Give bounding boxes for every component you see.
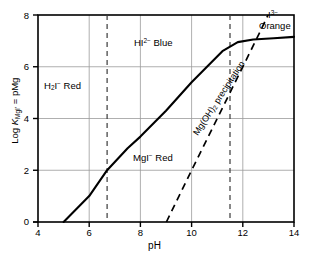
x-tick-label: 14 (284, 228, 304, 238)
annotation-hi-blue: HI2− Blue (134, 38, 173, 48)
x-tick-label: 4 (28, 228, 48, 238)
h2i-pre: H (44, 80, 51, 91)
x-tick-label: 12 (233, 228, 253, 238)
y-axis-title-prefix: Log (9, 125, 20, 144)
y-axis-title-suffix: = pMg (9, 78, 20, 107)
i3-post: Orange (259, 21, 291, 31)
y-axis-title-subscript: MgI' (14, 107, 21, 119)
x-tick-label: 8 (130, 228, 150, 238)
hi-pre: HI (134, 37, 144, 48)
h2i-post: Red (61, 80, 81, 91)
y-tick-label: 8 (15, 11, 29, 21)
hi-sup: 2− (144, 37, 151, 44)
x-tick-label: 6 (79, 228, 99, 238)
x-tick-label: 10 (182, 228, 202, 238)
chart-figure: 4 6 8 10 12 14 0 2 4 6 8 pH Log KMgI' = … (0, 0, 309, 257)
y-tick-label: 0 (15, 217, 29, 227)
x-axis-title: pH (0, 240, 309, 251)
y-axis-title: Log KMgI' = pMg (9, 41, 20, 181)
mgi-post: Red (153, 152, 173, 163)
annotation-h2i-red: H2I− Red (44, 81, 81, 92)
y-axis-title-symbol: K (9, 119, 20, 125)
mgi-pre: MgI (133, 152, 149, 163)
log-k-curve (64, 37, 294, 222)
hi-post: Blue (151, 37, 173, 48)
annotation-mgi-red: MgI− Red (133, 153, 173, 163)
i3-sup: 3− (271, 9, 278, 16)
annotation-i3-orange: I3−Orange (268, 10, 291, 31)
